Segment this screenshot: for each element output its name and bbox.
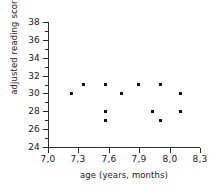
y-tick-label-wrap: 26 [0,125,40,134]
data-point [120,92,123,95]
y-tick-label-wrap: 38 [0,18,40,27]
y-tick-30 [43,93,48,94]
y-tick-label-wrap: 30 [0,89,40,98]
y-axis-line [48,22,49,148]
x-tick-2 [109,148,110,153]
x-tick-3 [139,148,140,153]
y-tick-38 [43,22,48,23]
y-axis-title: adjusted reading score [9,0,19,105]
y-minor-tick [45,67,48,68]
y-tick-label-wrap: 34 [0,54,40,63]
y-axis-tick-label: 38 [0,18,40,27]
data-point [137,83,140,86]
y-axis-tick-label: 34 [0,54,40,63]
x-tick-4 [170,148,171,153]
x-tick-0 [48,148,49,153]
data-point [159,119,162,122]
data-point [104,119,107,122]
data-point [70,92,73,95]
scatter-plot-figure: 2426283032343638 7,07,37,67,98,08,3 age … [0,0,223,194]
y-minor-tick [45,138,48,139]
y-tick-32 [43,76,48,77]
x-axis-tick-label: 7,6 [96,155,122,164]
y-minor-tick [45,31,48,32]
data-point [151,110,154,113]
y-tick-label-wrap: 32 [0,72,40,81]
y-axis-tick-label: 32 [0,72,40,81]
x-axis-line [48,147,200,148]
x-axis-tick-label: 7,9 [126,155,152,164]
y-axis-tick-label: 36 [0,36,40,45]
data-point [104,83,107,86]
y-tick-34 [43,58,48,59]
x-axis-title: age (years, months) [48,170,200,180]
y-minor-tick [45,120,48,121]
x-tick-5 [200,148,201,153]
x-axis-tick-label: 7,0 [35,155,61,164]
x-tick-1 [78,148,79,153]
data-point [179,92,182,95]
y-axis-tick-label: 26 [0,125,40,134]
y-minor-tick [45,102,48,103]
data-point [159,83,162,86]
y-tick-label-wrap: 36 [0,36,40,45]
x-axis-tick-label: 7,3 [65,155,91,164]
y-tick-36 [43,40,48,41]
y-minor-tick [45,85,48,86]
y-tick-label-wrap: 28 [0,107,40,116]
y-minor-tick [45,49,48,50]
y-tick-26 [43,129,48,130]
data-point [179,110,182,113]
data-point [104,110,107,113]
data-point [82,83,85,86]
y-axis-tick-label: 30 [0,89,40,98]
y-axis-tick-label: 24 [0,143,40,152]
y-axis-tick-label: 28 [0,107,40,116]
x-axis-tick-label: 8,0 [157,155,183,164]
x-axis-tick-label: 8,3 [187,155,213,164]
y-tick-label-wrap: 24 [0,143,40,152]
y-tick-28 [43,111,48,112]
